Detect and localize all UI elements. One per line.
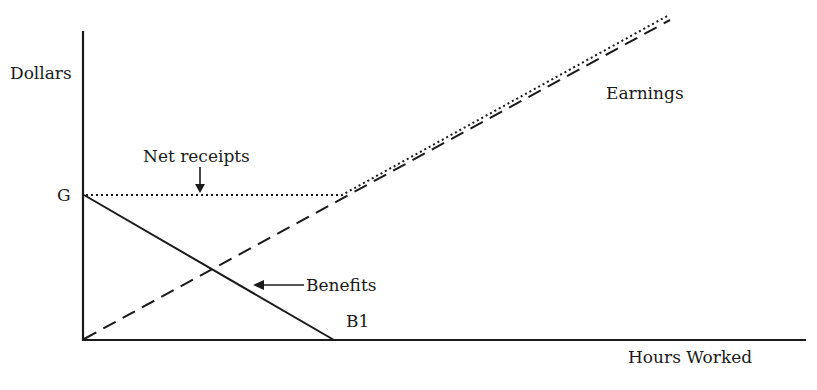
benefits-line — [84, 195, 334, 340]
net-receipts-line — [86, 15, 669, 195]
earnings-label: Earnings — [606, 85, 684, 102]
chart-plot-area — [0, 0, 817, 390]
earnings-line — [84, 20, 670, 339]
b1-tick-label: B1 — [346, 313, 369, 330]
net-receipts-arrowhead-icon — [195, 184, 205, 193]
benefits-arrowhead-icon — [253, 280, 264, 290]
x-axis-label: Hours Worked — [628, 349, 752, 366]
chart: Dollars Hours Worked G B1 Net receipts B… — [0, 0, 817, 390]
y-axis-label: Dollars — [10, 65, 72, 82]
net-receipts-label: Net receipts — [143, 148, 250, 165]
benefits-label: Benefits — [306, 277, 376, 294]
g-tick-label: G — [57, 187, 71, 204]
